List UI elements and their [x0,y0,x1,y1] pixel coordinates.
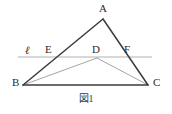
point-label-f: F [124,44,130,55]
vertex-label-a: A [99,3,107,14]
point-label-d: D [92,44,100,55]
segment-ab-line [23,19,103,85]
segment-dc-line [97,58,148,85]
vertex-label-b: B [12,77,19,88]
point-label-e: E [45,44,52,55]
line-label-ell: ℓ [25,45,30,56]
figure-caption: 図1 [0,93,172,105]
vertex-label-c: C [153,77,160,88]
figure-1-diagram: A B C E D F ℓ 図1 [0,0,172,114]
segment-bd-line [23,58,97,85]
